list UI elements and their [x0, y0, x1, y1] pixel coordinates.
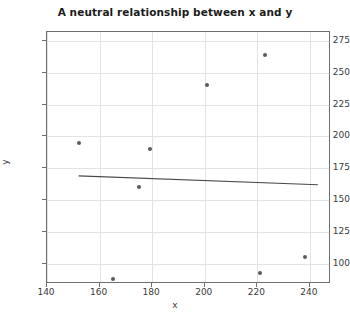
- x-axis-tick-label: 220: [236, 287, 276, 297]
- x-axis-tick-label: 200: [184, 287, 224, 297]
- scatter-chart-figure: A neutral relationship between x and y 1…: [0, 0, 350, 320]
- y-axis-label: y: [0, 159, 10, 164]
- x-axis-tick-label: 240: [289, 287, 329, 297]
- data-point: [111, 277, 115, 281]
- x-axis-tick-mark: [151, 283, 152, 287]
- gridline-horizontal: [47, 136, 329, 137]
- data-point: [205, 83, 209, 87]
- trend-line: [47, 32, 330, 283]
- x-axis-tick-label: 180: [131, 287, 171, 297]
- data-point: [303, 255, 307, 259]
- x-axis-tick-mark: [99, 283, 100, 287]
- data-point: [263, 53, 267, 57]
- plot-area: [46, 31, 330, 283]
- data-point: [258, 271, 262, 275]
- x-axis-tick-label: 160: [79, 287, 119, 297]
- gridline-horizontal: [47, 232, 329, 233]
- x-axis-tick-mark: [309, 283, 310, 287]
- x-axis-tick-label: 140: [26, 287, 66, 297]
- gridline-vertical: [257, 32, 258, 282]
- gridline-vertical: [100, 32, 101, 282]
- gridline-horizontal: [47, 41, 329, 42]
- gridline-horizontal: [47, 73, 329, 74]
- data-point: [77, 141, 81, 145]
- gridline-horizontal: [47, 168, 329, 169]
- chart-title: A neutral relationship between x and y: [0, 6, 350, 18]
- gridline-vertical: [152, 32, 153, 282]
- gridline-vertical: [205, 32, 206, 282]
- data-point: [148, 147, 152, 151]
- x-axis-tick-mark: [204, 283, 205, 287]
- gridline-vertical: [310, 32, 311, 282]
- x-axis-tick-mark: [46, 283, 47, 287]
- data-point: [137, 185, 141, 189]
- gridline-horizontal: [47, 264, 329, 265]
- x-axis-tick-mark: [256, 283, 257, 287]
- gridline-vertical: [47, 32, 48, 282]
- x-axis-label: x: [0, 300, 350, 310]
- gridline-horizontal: [47, 200, 329, 201]
- gridline-horizontal: [47, 105, 329, 106]
